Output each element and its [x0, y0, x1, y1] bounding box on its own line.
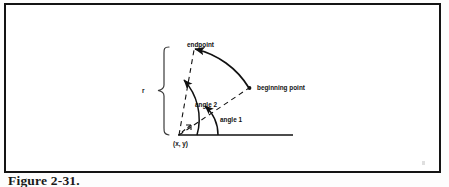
angle-1-arc [205, 106, 218, 135]
beginning-point-label: beginning point [257, 84, 306, 92]
figure-page: r endpoint beginning point angle 2 angle… [0, 0, 449, 187]
radius-to-endpoint [179, 50, 194, 135]
angle-1-label: angle 1 [220, 116, 242, 124]
figure-frame: r endpoint beginning point angle 2 angle… [4, 3, 441, 173]
scan-speck [422, 161, 425, 165]
figure-caption: Figure 2-31. [8, 176, 80, 187]
radius-to-beginning-point [179, 88, 249, 135]
main-arc [195, 49, 249, 88]
radius-label: r [142, 87, 145, 94]
origin-label: (x, y) [173, 140, 188, 148]
beginning-point-marker [248, 86, 252, 90]
figure-caption-strip: Figure 2-31. [0, 176, 449, 187]
radius-brace [158, 47, 169, 135]
endpoint-label: endpoint [187, 41, 215, 49]
angle-2-label: angle 2 [195, 101, 217, 109]
arc-diagram: r endpoint beginning point angle 2 angle… [6, 5, 439, 171]
